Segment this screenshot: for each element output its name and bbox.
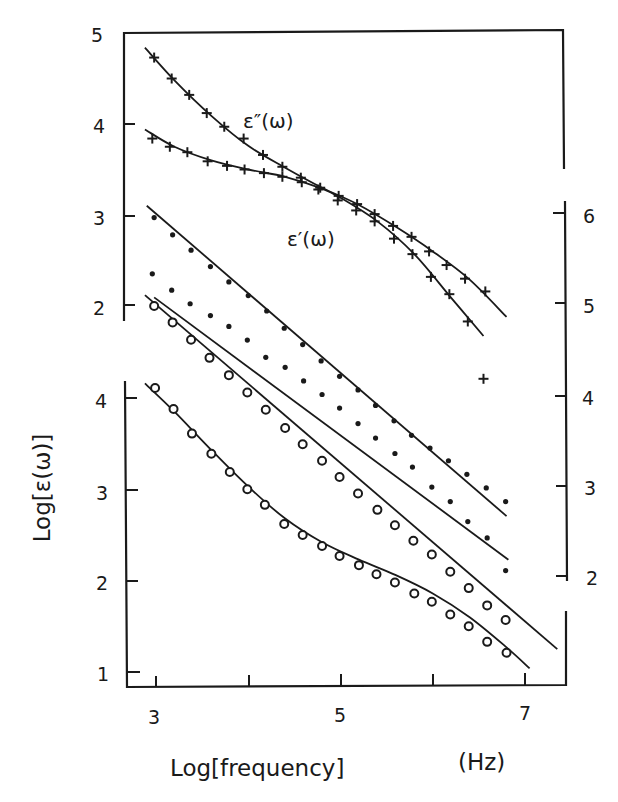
circle-marker	[170, 405, 178, 413]
dot-marker	[170, 232, 175, 237]
circle-marker	[261, 501, 269, 509]
dot-marker	[337, 406, 342, 411]
svg-text:2: 2	[586, 567, 598, 589]
svg-text:3: 3	[96, 482, 108, 504]
dot-marker	[355, 387, 360, 392]
dot-marker	[188, 301, 193, 306]
y-axis-title: Log[ε(ω)]	[29, 434, 55, 543]
circle-marker	[391, 521, 399, 529]
dot-marker	[503, 568, 508, 573]
circle-marker	[410, 589, 418, 597]
dot-marker	[245, 337, 250, 342]
circle-marker	[281, 424, 289, 432]
circle-marker	[483, 638, 491, 646]
fit-curve-4	[145, 295, 557, 649]
dot-marker	[300, 342, 305, 347]
dot-marker	[208, 313, 213, 318]
circle-marker	[299, 440, 307, 448]
dot-marker	[169, 288, 174, 293]
svg-text:1: 1	[97, 663, 109, 685]
svg-text:3: 3	[148, 706, 160, 728]
curve-label-eps-prime: ε′(ω)	[287, 227, 335, 251]
circle-marker	[169, 318, 177, 326]
svg-text:2: 2	[93, 297, 105, 319]
series-3-markers	[150, 271, 509, 573]
circle-marker	[372, 570, 380, 578]
dot-marker	[208, 264, 213, 269]
circle-marker	[428, 598, 436, 606]
svg-text:6: 6	[583, 205, 595, 227]
circle-marker	[465, 584, 473, 592]
dot-marker	[226, 324, 231, 329]
dot-marker	[465, 519, 470, 524]
circle-marker	[280, 520, 288, 528]
circle-marker	[299, 531, 307, 539]
dot-marker	[319, 392, 324, 397]
dot-marker	[373, 435, 378, 440]
circle-marker	[188, 430, 196, 438]
dot-marker	[337, 374, 342, 379]
circle-marker	[226, 468, 234, 476]
circle-marker	[502, 616, 510, 624]
circle-marker	[243, 485, 251, 493]
svg-text:5: 5	[583, 295, 595, 317]
circle-marker	[318, 457, 326, 465]
circle-marker	[503, 649, 511, 657]
circle-marker	[354, 489, 362, 497]
fit-curve-0	[145, 48, 507, 317]
right-tick-labels: 6 5 4 3 2	[582, 205, 598, 589]
circle-marker	[206, 354, 214, 362]
svg-text:3: 3	[93, 207, 105, 229]
circle-marker	[483, 601, 491, 609]
dot-marker	[301, 378, 306, 383]
x-tick-labels: 3 5 7	[148, 702, 531, 728]
svg-text:5: 5	[91, 24, 103, 46]
dot-marker	[503, 499, 508, 504]
dot-marker	[264, 308, 269, 313]
dot-marker	[246, 293, 251, 298]
dot-marker	[391, 418, 396, 423]
svg-text:5: 5	[334, 704, 346, 726]
dot-marker	[429, 484, 434, 489]
data-markers	[147, 53, 510, 657]
circle-marker	[373, 506, 381, 514]
dot-marker	[263, 355, 268, 360]
circle-marker	[355, 561, 363, 569]
dot-marker	[392, 451, 397, 456]
frame-top-left-upper	[124, 30, 564, 320]
svg-text:4: 4	[95, 390, 107, 412]
svg-text:2: 2	[96, 572, 108, 594]
dot-marker	[319, 358, 324, 363]
right-axis	[565, 202, 567, 580]
axes	[124, 30, 567, 687]
dot-marker	[485, 535, 490, 540]
dot-marker	[427, 445, 432, 450]
dot-marker	[188, 248, 193, 253]
dot-marker	[282, 326, 287, 331]
circle-marker	[243, 388, 251, 396]
dot-marker	[283, 365, 288, 370]
circle-marker	[446, 568, 454, 576]
svg-text:4: 4	[93, 115, 105, 137]
dot-marker	[484, 485, 489, 490]
circle-marker	[428, 550, 436, 558]
left-lower-tick-labels: 4 3 2 1	[95, 390, 109, 685]
x-axis-title: Log[frequency]	[170, 755, 344, 781]
dot-marker	[446, 458, 451, 463]
dot-marker	[464, 472, 469, 477]
circle-marker	[336, 473, 344, 481]
circle-marker	[151, 384, 159, 392]
x-axis-unit: (Hz)	[458, 749, 505, 775]
circle-marker	[150, 302, 158, 310]
circle-marker	[336, 552, 344, 560]
dot-marker	[410, 465, 415, 470]
dot-marker	[150, 271, 155, 276]
curve-label-eps-double-prime: ε″(ω)	[243, 109, 294, 133]
circle-marker	[187, 336, 195, 344]
fit-curve-2	[147, 206, 507, 516]
svg-text:4: 4	[582, 387, 594, 409]
circle-marker	[225, 371, 233, 379]
dot-marker	[152, 215, 157, 220]
left-upper-tick-labels: 5 4 3 2	[91, 24, 105, 319]
fit-curve-3	[154, 297, 508, 559]
